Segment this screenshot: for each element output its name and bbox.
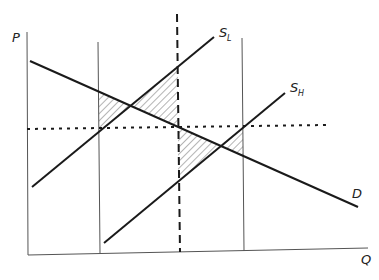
supply-high-curve: [104, 93, 285, 243]
demand-curve: [30, 61, 358, 207]
x-axis-label: Q: [361, 252, 371, 267]
supply-low-subscript: L: [227, 34, 231, 43]
x-axis: [28, 248, 368, 255]
y-axis-label: P: [12, 30, 20, 45]
welfare-triangle-3: [178, 127, 221, 182]
supply-high-subscript: H: [298, 89, 304, 98]
supply-demand-diagram: P Q D S L S H: [0, 0, 379, 280]
y-axis: [27, 32, 28, 255]
quantity-bound-left: [98, 42, 100, 253]
welfare-triangle-2: [131, 67, 178, 127]
demand-label: D: [352, 186, 362, 201]
